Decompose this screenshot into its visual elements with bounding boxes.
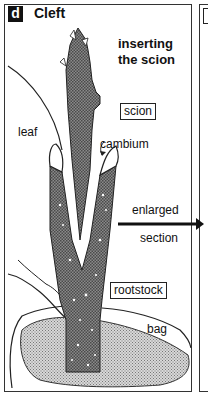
arrow-label-line-1: enlarged <box>132 203 179 217</box>
panel-letter-badge: d <box>8 6 23 22</box>
heading-line-1: inserting <box>118 36 173 51</box>
panel-heading: inserting the scion <box>118 36 175 68</box>
cambium-label: cambium <box>100 137 149 151</box>
heading-line-2: the scion <box>118 52 175 68</box>
panel-title: Cleft <box>34 5 65 21</box>
arrow-label-line-2: section <box>140 231 178 245</box>
scion-label: scion <box>120 103 156 120</box>
rootstock-label: rootstock <box>110 282 167 299</box>
grafting-illustration <box>0 0 208 393</box>
leaf-label: leaf <box>18 125 37 139</box>
bag-label: bag <box>147 322 167 336</box>
